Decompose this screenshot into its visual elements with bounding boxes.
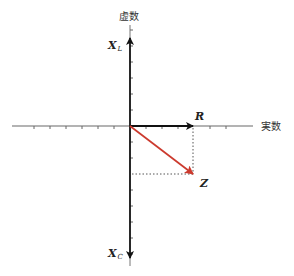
xl-label: XL xyxy=(108,40,122,53)
xc-label-main: X xyxy=(108,247,117,260)
vector-diagram: 虚数 実数 XL XC R Z xyxy=(0,0,294,276)
diagram-canvas xyxy=(0,0,294,276)
xl-label-sub: L xyxy=(118,45,123,53)
imaginary-axis-label: 虚数 xyxy=(119,12,139,22)
r-label: R xyxy=(195,111,204,122)
z-label: Z xyxy=(200,178,208,189)
xc-label: XC xyxy=(108,248,123,261)
xl-label-main: X xyxy=(108,39,117,52)
xc-label-sub: C xyxy=(118,253,123,261)
real-axis-label: 実数 xyxy=(261,122,281,132)
z-vector xyxy=(130,126,193,174)
